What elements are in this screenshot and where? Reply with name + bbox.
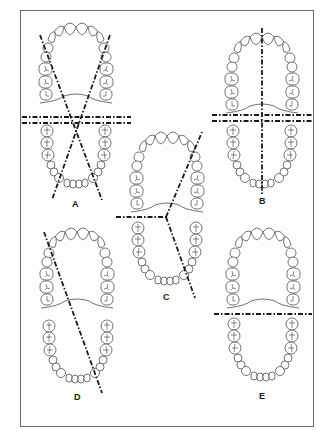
upper-arch-a [39,23,113,103]
panel-label-c: C [163,292,170,302]
panel-b [212,28,312,194]
upper-arch-e [226,228,300,308]
panel-c [116,132,204,298]
dental-arches-diagram [0,0,331,445]
lower-arch-d [43,320,113,383]
lower-arch-e [228,318,298,381]
panel-label-e: E [259,391,265,401]
lower-arch-c [132,222,202,285]
lower-arch-a [41,125,111,188]
panel-label-b: B [259,196,266,206]
panel-d [40,228,114,393]
panel-a [22,23,131,200]
upper-arch-c [130,132,204,212]
panel-e [214,228,312,381]
panel-label-d: D [74,392,81,402]
upper-arch-d [40,228,114,308]
panel-label-a: A [72,199,79,209]
